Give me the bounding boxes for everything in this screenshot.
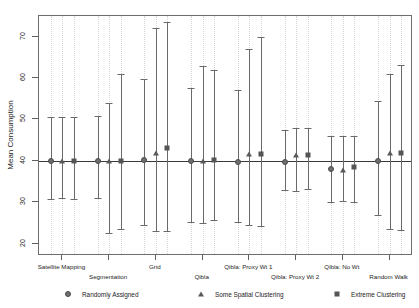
- error-bar-cap: [188, 222, 195, 223]
- chart-legend: Randomly AssignedSome Spatial Clustering…: [0, 286, 419, 302]
- circle-marker-icon: [235, 159, 241, 165]
- x-tick-mark: [295, 255, 296, 260]
- error-bar-cap: [386, 229, 393, 230]
- error-bar-cap: [106, 103, 113, 104]
- x-tick-label: Qibla: No Wt: [324, 263, 359, 270]
- x-tick-label: Random Walk: [369, 273, 408, 280]
- error-bar: [156, 28, 157, 231]
- error-bar-cap: [211, 220, 218, 221]
- triangle-marker-icon: [200, 158, 206, 163]
- grid-line: [343, 16, 344, 254]
- chart-container: Mean Consumption 203040506070 Satellite …: [0, 0, 419, 308]
- square-marker-icon: [305, 153, 310, 158]
- square-marker-icon: [399, 151, 404, 156]
- error-bar-cap: [293, 128, 300, 129]
- circle-marker-icon: [188, 158, 194, 164]
- error-bar-cap: [328, 202, 335, 203]
- x-tick-label: Segmentation: [89, 273, 127, 280]
- x-tick-mark: [61, 255, 62, 260]
- y-tick-label: 30: [19, 197, 26, 205]
- circle-marker-icon: [141, 157, 147, 163]
- x-tick-mark: [155, 255, 156, 260]
- error-bar: [296, 128, 297, 191]
- circle-marker-icon: [282, 159, 288, 165]
- error-bar-cap: [117, 74, 124, 75]
- error-bar: [249, 49, 250, 225]
- error-bar-cap: [304, 128, 311, 129]
- error-bar-cap: [386, 74, 393, 75]
- x-tick-label: Satellite Mapping: [38, 263, 85, 270]
- square-marker-icon: [118, 158, 123, 163]
- error-bar-cap: [246, 225, 253, 226]
- error-bar: [121, 74, 122, 228]
- y-axis-label: Mean Consumption: [6, 100, 15, 169]
- circle-marker-icon: [328, 166, 334, 172]
- error-bar-cap: [47, 117, 54, 118]
- y-tick-label: 60: [19, 73, 26, 81]
- triangle-marker-icon: [246, 151, 252, 156]
- triangle-marker-icon: [59, 158, 65, 163]
- x-tick-label: Qibla: Proxy Wt 1: [224, 263, 272, 270]
- x-tick-mark: [389, 255, 390, 260]
- triangle-marker-icon: [340, 167, 346, 172]
- error-bar-cap: [152, 231, 159, 232]
- error-bar-cap: [281, 130, 288, 131]
- x-tick-mark: [108, 255, 109, 260]
- error-bar-cap: [304, 189, 311, 190]
- error-bar-cap: [70, 117, 77, 118]
- y-tick-label: 40: [19, 156, 26, 164]
- error-bar: [261, 37, 262, 227]
- error-bar-cap: [257, 37, 264, 38]
- error-bar: [401, 65, 402, 229]
- error-bar-cap: [375, 215, 382, 216]
- error-bar-cap: [293, 191, 300, 192]
- x-tick-mark: [202, 255, 203, 260]
- error-bar-cap: [351, 202, 358, 203]
- error-bar: [167, 22, 168, 231]
- plot-area: [38, 15, 412, 255]
- error-bar: [238, 90, 239, 221]
- error-bar-cap: [59, 198, 66, 199]
- error-bar-cap: [117, 229, 124, 230]
- circle-marker-icon: [48, 158, 54, 164]
- error-bar-cap: [211, 70, 218, 71]
- error-bar: [214, 70, 215, 221]
- error-bar-cap: [152, 28, 159, 29]
- error-bar-cap: [398, 230, 405, 231]
- error-bar-cap: [199, 66, 206, 67]
- circle-marker-icon: [95, 158, 101, 164]
- error-bar-cap: [141, 79, 148, 80]
- grid-line: [354, 16, 355, 254]
- plot-inner: [39, 16, 411, 254]
- error-bar-cap: [234, 90, 241, 91]
- error-bar-cap: [164, 231, 171, 232]
- y-tick-label: 20: [19, 239, 26, 247]
- error-bar-cap: [398, 65, 405, 66]
- legend-square-icon: [335, 292, 340, 297]
- x-tick-mark: [342, 255, 343, 260]
- triangle-marker-icon: [387, 150, 393, 155]
- square-marker-icon: [258, 151, 263, 156]
- error-bar-cap: [59, 117, 66, 118]
- error-bar-cap: [47, 199, 54, 200]
- error-bar-cap: [351, 136, 358, 137]
- error-bar-cap: [234, 222, 241, 223]
- error-bar: [308, 128, 309, 189]
- error-bar-cap: [339, 136, 346, 137]
- error-bar-cap: [188, 88, 195, 89]
- x-tick-mark: [248, 255, 249, 260]
- grid-line: [331, 16, 332, 254]
- error-bar-cap: [199, 223, 206, 224]
- circle-marker-icon: [375, 158, 381, 164]
- legend-label: Randomly Assigned: [82, 291, 138, 298]
- error-bar-cap: [246, 49, 253, 50]
- error-bar-cap: [141, 225, 148, 226]
- error-bar: [144, 79, 145, 225]
- square-marker-icon: [212, 158, 217, 163]
- legend-triangle-icon: [198, 292, 204, 297]
- error-bar-cap: [70, 199, 77, 200]
- error-bar-cap: [94, 198, 101, 199]
- square-marker-icon: [165, 145, 170, 150]
- x-tick-label: Qibla: [194, 273, 208, 280]
- triangle-marker-icon: [153, 150, 159, 155]
